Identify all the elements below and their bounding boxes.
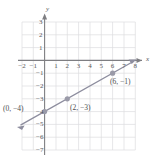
- data-point-2-neg3[interactable]: [65, 96, 70, 101]
- x-tick-3: 3: [77, 63, 81, 70]
- x-tick-5: 5: [100, 63, 104, 70]
- data-point-6-neg1[interactable]: [110, 71, 115, 76]
- x-tick-4: 4: [88, 63, 92, 70]
- y-tick-2: 2: [39, 32, 43, 39]
- x-tick-8: 8: [134, 63, 138, 70]
- x-tick-neg2: −2: [18, 63, 25, 70]
- point-label-6-neg1: (6, −1): [110, 78, 130, 86]
- y-tick-3: 3: [39, 19, 43, 26]
- x-tick-1: 1: [54, 63, 58, 70]
- y-tick-neg6: −6: [36, 134, 43, 141]
- y-tick-neg3: −3: [36, 96, 43, 103]
- graph-canvas: [0, 0, 161, 155]
- line-arrow-left-icon: [17, 126, 25, 131]
- coordinate-plane-figure: x y −2 −1 1 2 3 4 5 6 7 8 3 2 1 −1 −2 −3…: [0, 0, 161, 155]
- x-tick-6: 6: [111, 63, 115, 70]
- point-label-0-neg4: (0, −4): [3, 105, 23, 113]
- y-tick-1: 1: [39, 45, 43, 52]
- x-axis-arrow-icon: [137, 58, 143, 63]
- y-tick-neg1: −1: [36, 70, 43, 77]
- x-tick-2: 2: [66, 63, 70, 70]
- plotted-line: [17, 59, 137, 130]
- x-axis-label: x: [146, 56, 149, 63]
- y-tick-neg2: −2: [36, 83, 43, 90]
- y-tick-neg7: −7: [36, 147, 43, 154]
- y-axis-label: y: [46, 6, 49, 13]
- point-label-2-neg3: (2, −3): [70, 104, 90, 112]
- y-tick-neg4: −4: [36, 109, 43, 116]
- x-tick-7: 7: [122, 63, 126, 70]
- y-tick-neg5: −5: [36, 121, 43, 128]
